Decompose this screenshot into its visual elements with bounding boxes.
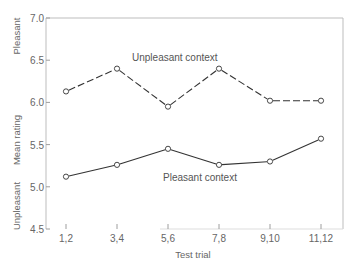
series-line <box>69 166 114 176</box>
data-point-marker <box>114 66 119 71</box>
data-point-marker <box>318 98 323 103</box>
y-tick-label: 6.0 <box>30 97 44 108</box>
x-axis-title: Test trial <box>175 249 210 260</box>
y-tick-label: 7.0 <box>30 13 44 24</box>
data-point-marker <box>216 162 221 167</box>
series-line <box>222 70 268 99</box>
y-tick-label: 4.5 <box>30 224 44 235</box>
y-axis-top-label: Pleasant <box>11 17 22 54</box>
x-tick-label: 11,12 <box>309 233 334 244</box>
x-tick-label: 5,6 <box>161 233 175 244</box>
data-point-marker <box>267 98 272 103</box>
y-axis-title: Mean rating <box>11 115 22 165</box>
series-layer <box>63 66 323 179</box>
series-line <box>119 70 165 104</box>
series-line <box>69 70 115 90</box>
series-unpleasant <box>63 66 323 109</box>
x-tick-label: 7,8 <box>212 233 226 244</box>
y-axis-bottom-label: Unpleasant <box>11 182 22 230</box>
data-point-marker <box>165 146 170 151</box>
y-axis: 4.55.05.56.06.57.0 <box>30 13 50 235</box>
y-tick-label: 5.5 <box>30 140 44 151</box>
line-chart: 4.55.05.56.06.57.0 1,23,45,67,89,1011,12… <box>0 0 358 266</box>
data-point-marker <box>63 174 68 179</box>
series-line <box>273 140 319 160</box>
x-axis: 1,23,45,67,89,1011,12 <box>59 224 334 244</box>
x-tick-label: 3,4 <box>110 233 124 244</box>
y-tick-label: 6.5 <box>30 55 44 66</box>
data-point-marker <box>165 104 170 109</box>
series-label-pleasant: Pleasant context <box>163 172 237 183</box>
data-point-marker <box>63 89 68 94</box>
data-point-marker <box>267 159 272 164</box>
series-line <box>171 150 216 164</box>
series-line <box>222 162 267 165</box>
x-tick-label: 1,2 <box>59 233 73 244</box>
series-label-unpleasant: Unpleasant context <box>132 52 218 63</box>
series-line <box>170 70 216 104</box>
data-point-marker <box>216 66 221 71</box>
data-point-marker <box>114 162 119 167</box>
series-line <box>120 150 165 164</box>
x-tick-label: 9,10 <box>260 233 280 244</box>
data-point-marker <box>318 136 323 141</box>
y-tick-label: 5.0 <box>30 182 44 193</box>
plot-frame <box>46 18 343 229</box>
